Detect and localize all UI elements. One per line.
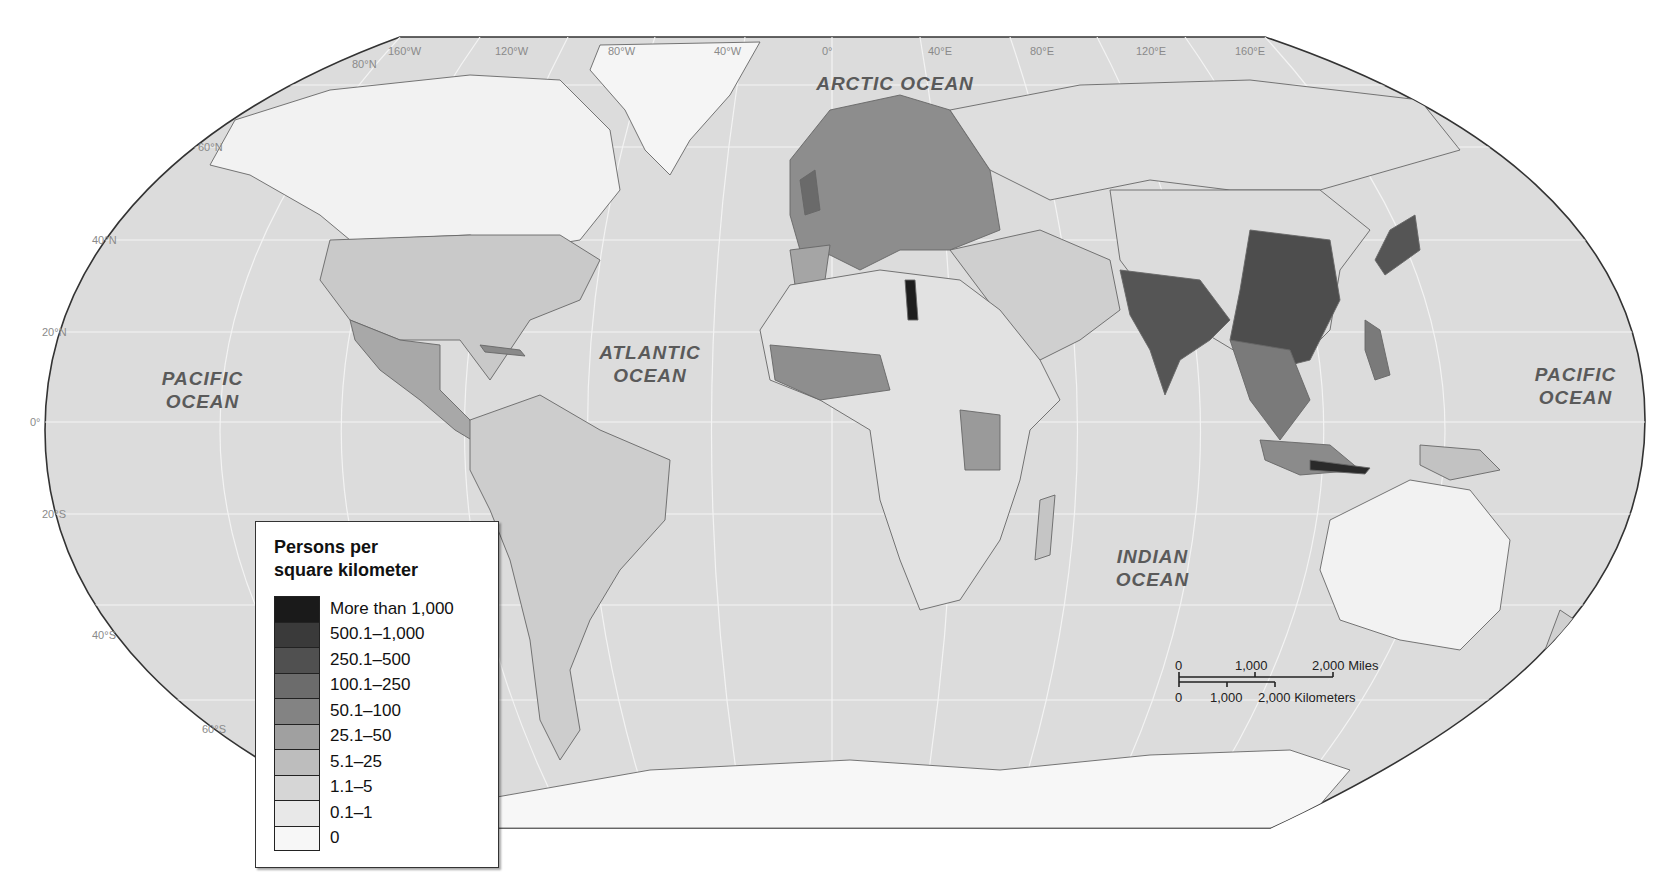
legend-item: 0.1–1 [274, 800, 454, 826]
atlantic-line2: OCEAN [585, 364, 715, 387]
lat-label-20s: 20°S [42, 508, 66, 520]
legend-swatch [274, 673, 320, 699]
lon-label-40w: 40°W [714, 45, 741, 57]
legend-swatch [274, 647, 320, 673]
legend-label: 250.1–500 [330, 650, 410, 670]
atlantic-ocean-label: ATLANTIC OCEAN [585, 341, 715, 387]
scale-km-0: 0 [1175, 690, 1182, 705]
legend-item: 0 [274, 826, 454, 852]
scale-km-1000: 1,000 [1210, 690, 1243, 705]
east-africa [960, 410, 1000, 470]
legend-label: 0 [330, 828, 339, 848]
lat-label-60n: 60°N [198, 141, 223, 153]
legend-item: 500.1–1,000 [274, 622, 454, 648]
legend-swatch [274, 826, 320, 852]
lat-label-80n: 80°N [352, 58, 377, 70]
lat-label-40n: 40°N [92, 234, 117, 246]
legend-item: 5.1–25 [274, 749, 454, 775]
legend-item: 1.1–5 [274, 775, 454, 801]
legend-rows: More than 1,000 500.1–1,000 250.1–500 10… [274, 596, 454, 851]
lon-label-160e: 160°E [1235, 45, 1265, 57]
lon-label-80e: 80°E [1030, 45, 1054, 57]
legend-title-line1: Persons per [274, 536, 418, 559]
legend-label: 1.1–5 [330, 777, 373, 797]
legend-swatch [274, 622, 320, 648]
pacific-east-line2: OCEAN [1518, 386, 1633, 409]
lon-label-160w: 160°W [388, 45, 421, 57]
legend-label: More than 1,000 [330, 599, 454, 619]
legend-label: 5.1–25 [330, 752, 382, 772]
lon-label-40e: 40°E [928, 45, 952, 57]
legend-item: 25.1–50 [274, 724, 454, 750]
indian-line1: INDIAN [1095, 545, 1210, 568]
legend-label: 25.1–50 [330, 726, 391, 746]
legend-item: 100.1–250 [274, 673, 454, 699]
legend-swatch [274, 596, 320, 622]
indian-line2: OCEAN [1095, 568, 1210, 591]
pacific-east-ocean-label: PACIFIC OCEAN [1518, 363, 1633, 409]
lat-label-60s: 60°S [202, 723, 226, 735]
lon-label-120e: 120°E [1136, 45, 1166, 57]
legend-swatch [274, 749, 320, 775]
lon-label-120w: 120°W [495, 45, 528, 57]
legend-label: 100.1–250 [330, 675, 410, 695]
lat-label-40s: 40°S [92, 629, 116, 641]
legend-swatch [274, 698, 320, 724]
legend: Persons per square kilometer More than 1… [255, 521, 499, 868]
legend-item: More than 1,000 [274, 596, 454, 622]
scale-km-2000: 2,000 Kilometers [1258, 690, 1356, 705]
legend-swatch [274, 775, 320, 801]
world-map [0, 0, 1662, 896]
lon-label-80w: 80°W [608, 45, 635, 57]
legend-label: 0.1–1 [330, 803, 373, 823]
lon-label-0: 0° [822, 45, 833, 57]
legend-title-line2: square kilometer [274, 559, 418, 582]
legend-swatch [274, 724, 320, 750]
pacific-west-ocean-label: PACIFIC OCEAN [145, 367, 260, 413]
lat-label-20n: 20°N [42, 326, 67, 338]
arctic-ocean-label: ARCTIC OCEAN [800, 72, 990, 95]
pacific-west-line1: PACIFIC [145, 367, 260, 390]
atlantic-line1: ATLANTIC [585, 341, 715, 364]
pacific-west-line2: OCEAN [145, 390, 260, 413]
indian-ocean-label: INDIAN OCEAN [1095, 545, 1210, 591]
legend-title: Persons per square kilometer [274, 536, 418, 582]
legend-label: 500.1–1,000 [330, 624, 425, 644]
scale-bar: 0 1,000 2,000 Miles 0 1,000 2,000 Kilome… [1170, 655, 1390, 710]
pacific-east-line1: PACIFIC [1518, 363, 1633, 386]
lat-label-0: 0° [30, 416, 41, 428]
legend-swatch [274, 800, 320, 826]
legend-item: 250.1–500 [274, 647, 454, 673]
legend-item: 50.1–100 [274, 698, 454, 724]
legend-label: 50.1–100 [330, 701, 401, 721]
